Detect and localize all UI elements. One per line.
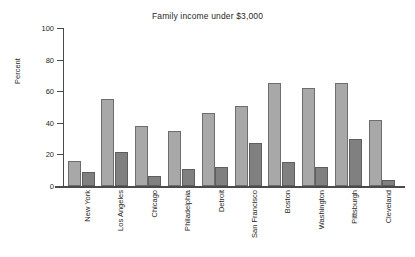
- bar: [82, 172, 95, 186]
- bar: [215, 167, 228, 186]
- bar-chart: Family income under $3,000 Percent 02040…: [0, 0, 415, 257]
- x-category-label-wrap: Pittsburgh: [350, 190, 359, 224]
- bar: [268, 83, 281, 186]
- x-category-label: Cleveland: [384, 190, 393, 223]
- x-category-label-wrap: Los Angeles: [116, 190, 125, 231]
- x-category-label: San Francisco: [250, 190, 259, 238]
- bar: [382, 180, 395, 186]
- x-category-label-wrap: Chicago: [150, 190, 159, 218]
- x-category-label: Philadelphia: [183, 190, 192, 231]
- bar: [335, 83, 348, 186]
- bar: [148, 176, 161, 186]
- x-category-label-wrap: San Francisco: [250, 190, 259, 238]
- bar: [302, 88, 315, 186]
- bar: [315, 167, 328, 186]
- x-category-label: Washington: [317, 190, 326, 229]
- x-category-label-wrap: New York: [83, 190, 92, 222]
- x-category-label: New York: [83, 190, 92, 222]
- x-category-label-wrap: Washington: [317, 190, 326, 229]
- bar: [68, 161, 81, 186]
- x-category-label-wrap: Philadelphia: [183, 190, 192, 231]
- x-category-label: Chicago: [150, 190, 159, 218]
- bar: [202, 113, 215, 186]
- bar: [249, 143, 262, 186]
- bar: [182, 169, 195, 186]
- bar: [235, 106, 248, 186]
- bar: [101, 99, 114, 186]
- x-category-label: Boston: [283, 190, 292, 213]
- bar: [282, 162, 295, 186]
- x-category-label-wrap: Cleveland: [384, 190, 393, 223]
- bar: [115, 152, 128, 186]
- x-category-label-wrap: Detroit: [217, 190, 226, 212]
- bar: [168, 131, 181, 186]
- x-category-label: Los Angeles: [116, 190, 125, 231]
- x-category-label: Pittsburgh: [350, 190, 359, 224]
- x-category-label-wrap: Boston: [283, 190, 292, 213]
- x-category-label: Detroit: [217, 190, 226, 212]
- bar: [369, 120, 382, 186]
- bar: [135, 126, 148, 186]
- bar: [349, 139, 362, 186]
